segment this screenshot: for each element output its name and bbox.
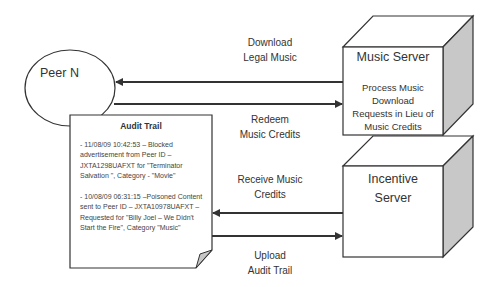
audit-trail-title: Audit Trail — [70, 121, 212, 131]
peer-label: Peer N — [40, 66, 79, 80]
audit-entry-line: - 10/08/09 06:31:15 –Poisoned Content — [80, 192, 208, 202]
arrow-label-line: Receive Music — [225, 172, 315, 187]
incentive-server-title-line: Server — [343, 189, 443, 208]
arrow-label-line: Download — [230, 35, 310, 50]
music-server-desc-line: Requests in Lieu of — [343, 107, 443, 120]
arrow-label-line: Upload — [230, 248, 310, 263]
incentive-server-title-line: Incentive — [343, 170, 443, 189]
arrow-label-line: Credits — [225, 187, 315, 202]
arrow-label-line: Music Credits — [225, 127, 315, 142]
audit-trail-entry: - 10/08/09 06:31:15 –Poisoned Content se… — [80, 192, 208, 233]
arrow-label-upload: Upload Audit Trail — [230, 248, 310, 278]
music-server-desc-line: Download — [343, 94, 443, 107]
music-server-desc-line: Process Music — [343, 81, 443, 94]
audit-entry-line: advertisement from Peer ID – — [80, 150, 208, 160]
audit-entry-line: sent to Peer ID – JXTA10978UAFXT – — [80, 202, 208, 212]
audit-entry-line: Salvation ", Category - "Movie" — [80, 171, 208, 181]
audit-entry-line: Start the Fire", Category "Music" — [80, 223, 208, 233]
arrow-label-download: Download Legal Music — [230, 35, 310, 65]
arrow-label-line: Legal Music — [230, 50, 310, 65]
audit-entry-line: - 11/08/09 10:42:53 – Blocked — [80, 140, 208, 150]
music-server-title: Music Server — [343, 50, 443, 64]
arrow-label-line: Redeem — [225, 112, 315, 127]
arrow-label-redeem: Redeem Music Credits — [225, 112, 315, 142]
audit-entry-line: JXTA1298UAFXT for "Terminator — [80, 161, 208, 171]
arrow-label-receive: Receive Music Credits — [225, 172, 315, 202]
audit-entry-line: Requested for "Billy Joel – We Didn't — [80, 213, 208, 223]
arrow-label-line: Audit Trail — [230, 263, 310, 278]
music-server-desc-line: Music Credits — [343, 120, 443, 133]
audit-trail-entry: - 11/08/09 10:42:53 – Blocked advertisem… — [80, 140, 208, 181]
music-server-description: Process Music Download Requests in Lieu … — [343, 81, 443, 133]
incentive-server-title: Incentive Server — [343, 170, 443, 208]
